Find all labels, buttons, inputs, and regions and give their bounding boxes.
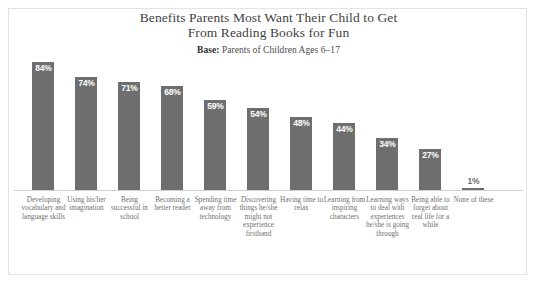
bar-rect (32, 62, 54, 190)
category-label: Developing vocabulary and language skill… (20, 196, 67, 221)
category-label: None of these (450, 196, 497, 204)
bar-rect (247, 108, 269, 190)
category-label: Learning from inspiring characters (321, 196, 368, 221)
category-label: Being successful in school (106, 196, 153, 221)
bar-value-label: 71% (108, 83, 151, 93)
category-label: Becoming a better reader (149, 196, 196, 213)
bar-chart-plot: 84%74%71%68%59%54%48%44%34%27%1% Develop… (0, 0, 537, 284)
category-label: Learning ways to deal with experiences h… (364, 196, 411, 238)
bar-value-label: 1% (452, 176, 495, 186)
category-label: Using his/her imagination (63, 196, 110, 213)
category-label: Having time to relax (278, 196, 325, 213)
bar-value-label: 27% (409, 150, 452, 160)
bar-rect (462, 188, 484, 190)
category-label: Spending time away from technology (192, 196, 239, 221)
bar-rect (75, 77, 97, 190)
bar-rect (118, 82, 140, 190)
bar-value-label: 44% (323, 124, 366, 134)
bar-rect (161, 86, 183, 190)
bar-rect (204, 100, 226, 190)
bar-value-label: 34% (366, 139, 409, 149)
chart-baseline (14, 190, 523, 191)
bar-value-label: 54% (237, 109, 280, 119)
bar-value-label: 74% (65, 78, 108, 88)
category-label: Being able to forget about real life for… (407, 196, 454, 230)
bar-value-label: 48% (280, 118, 323, 128)
bar-value-label: 59% (194, 101, 237, 111)
category-label: Discovering things he/she might not expe… (235, 196, 282, 238)
bar-value-label: 84% (22, 63, 65, 73)
bar-value-label: 68% (151, 87, 194, 97)
